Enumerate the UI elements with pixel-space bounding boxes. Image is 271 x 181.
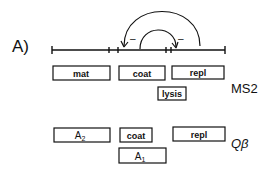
- qbeta-label: Qβ: [231, 136, 249, 151]
- gene-a2: A2: [75, 130, 86, 142]
- gene-lysis: lysis: [162, 89, 182, 99]
- genome-diagram: A) – – mat coat repl lysis MS2 A2 coat r…: [0, 0, 271, 181]
- panel-label: A): [12, 37, 29, 56]
- ms2-label: MS2: [231, 81, 258, 96]
- small-arc: [140, 30, 176, 49]
- gene-repl-qb: repl: [191, 130, 208, 140]
- gene-mat: mat: [73, 69, 89, 79]
- gene-coat-qb: coat: [127, 131, 146, 141]
- gene-repl: repl: [190, 68, 207, 78]
- large-arc-sign: –: [130, 33, 136, 44]
- genome-line: [52, 46, 225, 54]
- small-arc-sign: –: [178, 33, 184, 44]
- gene-a1: A1: [135, 151, 146, 163]
- gene-coat: coat: [133, 69, 152, 79]
